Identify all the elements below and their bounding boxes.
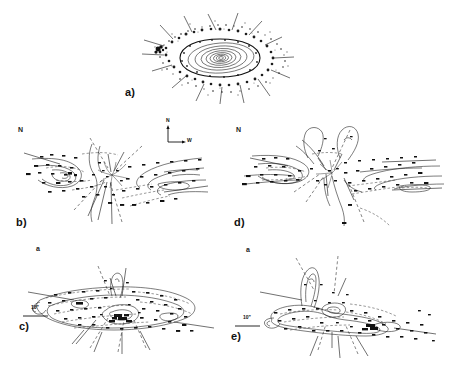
panel-a-graphic	[120, 8, 320, 108]
panel-d-graphic	[232, 124, 448, 236]
panel-e-scalebar-label: 10"	[243, 314, 251, 320]
panel-e-scalebar: 10"	[234, 316, 264, 330]
panel-d-corner-mark: N	[236, 126, 241, 133]
panel-d-velocity-map: N d)	[232, 124, 448, 236]
panel-c-corner-mark: a	[36, 245, 40, 252]
panel-e-graphic	[228, 244, 448, 369]
panel-c-scalebar-label: 10"	[31, 304, 39, 310]
panel-label-e: e)	[231, 330, 241, 342]
panel-label-d: d)	[234, 216, 245, 228]
panel-b-corner-mark: N	[18, 126, 23, 133]
panel-label-a: a)	[125, 86, 135, 98]
panel-a-galaxy: a)	[120, 8, 320, 108]
compass-north-label: N	[166, 117, 170, 123]
panel-b-velocity-map: N b)	[12, 124, 222, 236]
panel-label-b: b)	[16, 216, 27, 228]
panel-label-c: c)	[19, 320, 29, 332]
panel-e-velocity-map: a 10" e)	[228, 244, 448, 369]
panel-c-velocity-map: a 10" c)	[14, 244, 226, 369]
panel-b-graphic	[12, 124, 222, 236]
figure-canvas: a) N W	[0, 0, 454, 385]
panel-e-corner-mark: a	[246, 246, 250, 253]
panel-c-scalebar: 10"	[22, 306, 52, 320]
